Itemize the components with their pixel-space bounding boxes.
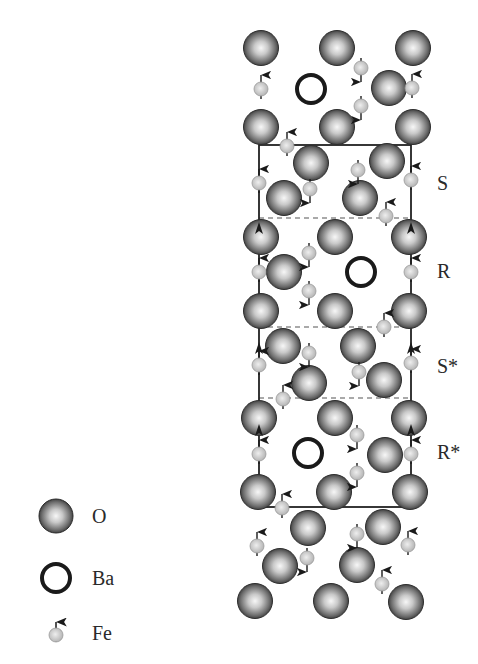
barium-atom-icon bbox=[347, 258, 375, 286]
legend-label-iron: Fe bbox=[92, 622, 112, 644]
oxygen-atom-icon bbox=[238, 584, 273, 619]
iron-atom-icon bbox=[404, 173, 418, 187]
oxygen-atom-icon bbox=[366, 510, 401, 545]
iron-atom-up bbox=[252, 258, 266, 282]
oxygen-atom-icon bbox=[396, 31, 431, 66]
iron-atom-icon bbox=[379, 209, 393, 223]
oxygen-atom-icon bbox=[267, 255, 302, 290]
iron-sphere-icon bbox=[49, 628, 63, 642]
oxygen-atom-icon bbox=[389, 585, 424, 620]
iron-atom-up bbox=[254, 75, 268, 99]
iron-atom-up bbox=[252, 169, 266, 193]
iron-atom-icon bbox=[401, 538, 415, 552]
iron-atom-icon bbox=[252, 358, 266, 372]
iron-atom-icon bbox=[300, 551, 314, 565]
iron-atom-icon bbox=[252, 176, 266, 190]
iron-atom-icon bbox=[404, 447, 418, 461]
oxygen-atom-icon bbox=[370, 144, 405, 179]
iron-atom-up bbox=[250, 532, 264, 556]
iron-atom-icon bbox=[375, 577, 389, 591]
oxygen-atom-icon bbox=[372, 71, 407, 106]
block-label-s: S bbox=[437, 172, 448, 194]
oxygen-atom-icon bbox=[343, 181, 378, 216]
oxygen-sphere-icon bbox=[39, 499, 73, 533]
oxygen-atom-icon bbox=[263, 549, 298, 584]
block-label-s-star: S* bbox=[437, 355, 458, 377]
oxygen-atom-icon bbox=[320, 110, 355, 145]
iron-atom-icon bbox=[276, 392, 290, 406]
iron-atom-up bbox=[401, 531, 415, 555]
legend-item-oxygen: O bbox=[39, 499, 106, 533]
oxygen-atom-icon bbox=[340, 548, 375, 583]
iron-atom-icon bbox=[350, 527, 364, 541]
iron-atom-icon bbox=[354, 61, 368, 75]
iron-atom-icon bbox=[280, 139, 294, 153]
oxygen-atom-icon bbox=[392, 220, 427, 255]
iron-atom-up bbox=[379, 202, 393, 226]
block-label-r-star: R* bbox=[437, 441, 460, 463]
iron-atom-down bbox=[302, 243, 316, 267]
oxygen-atom-icon bbox=[266, 329, 301, 364]
oxygen-atom-icon bbox=[244, 110, 279, 145]
block-label-r: R bbox=[437, 260, 451, 282]
iron-atom-icon bbox=[302, 346, 316, 360]
oxygen-atom-icon bbox=[294, 146, 329, 181]
iron-atom-down bbox=[303, 179, 317, 203]
iron-atom-icon bbox=[275, 501, 289, 515]
legend-label-barium: Ba bbox=[92, 567, 114, 589]
oxygen-atom-icon bbox=[396, 110, 431, 145]
iron-atom-up bbox=[404, 440, 418, 464]
iron-atom-up bbox=[252, 440, 266, 464]
iron-atom-up bbox=[252, 351, 266, 375]
oxygen-atom-icon bbox=[291, 511, 326, 546]
oxygen-atom-icon bbox=[320, 31, 355, 66]
iron-atom-icon bbox=[250, 539, 264, 553]
iron-atom-up bbox=[404, 166, 418, 190]
iron-atom-up bbox=[404, 258, 418, 282]
iron-atom-up bbox=[377, 313, 391, 337]
iron-atom-icon bbox=[404, 265, 418, 279]
oxygen-atom-icon bbox=[292, 366, 327, 401]
iron-atom-up bbox=[405, 74, 419, 98]
oxygen-atoms bbox=[238, 31, 431, 620]
iron-atom-up bbox=[404, 349, 418, 373]
iron-atom-up bbox=[280, 132, 294, 156]
oxygen-atom-icon bbox=[314, 584, 349, 619]
iron-atom-down bbox=[302, 281, 316, 305]
iron-atom-icon bbox=[352, 365, 366, 379]
iron-atom-icon bbox=[302, 284, 316, 298]
iron-atom-icon bbox=[350, 466, 364, 480]
iron-atom-down bbox=[300, 548, 314, 572]
iron-atom-icon bbox=[354, 99, 368, 113]
barium-atom-icon bbox=[294, 439, 322, 467]
iron-atom-icon bbox=[252, 265, 266, 279]
iron-atom-icon bbox=[302, 246, 316, 260]
iron-atom-up bbox=[276, 385, 290, 409]
iron-atom-down bbox=[350, 524, 364, 548]
iron-atom-down bbox=[350, 425, 364, 449]
oxygen-atom-icon bbox=[241, 475, 276, 510]
legend-item-iron: Fe bbox=[49, 622, 112, 644]
barium-ring-icon bbox=[42, 564, 70, 592]
iron-atom-icon bbox=[303, 182, 317, 196]
iron-atom-up bbox=[375, 570, 389, 594]
iron-atom-up bbox=[275, 494, 289, 518]
iron-atom-icon bbox=[404, 356, 418, 370]
oxygen-atom-icon bbox=[368, 438, 403, 473]
oxygen-atom-icon bbox=[267, 181, 302, 216]
oxygen-atom-icon bbox=[393, 475, 428, 510]
iron-atom-icon bbox=[405, 81, 419, 95]
iron-atom-down bbox=[354, 96, 368, 120]
oxygen-atom-icon bbox=[244, 31, 279, 66]
iron-atom-icon bbox=[252, 447, 266, 461]
iron-atom-down bbox=[354, 58, 368, 82]
legend-item-barium: Ba bbox=[42, 564, 114, 592]
oxygen-atom-icon bbox=[341, 329, 376, 364]
oxygen-atom-icon bbox=[318, 401, 353, 436]
block-labels: S R S* R* bbox=[437, 172, 460, 463]
iron-atom-icon bbox=[377, 320, 391, 334]
iron-atom-icon bbox=[350, 428, 364, 442]
barium-atom-icon bbox=[297, 75, 325, 103]
legend: O Ba Fe bbox=[39, 499, 114, 644]
oxygen-atom-icon bbox=[392, 294, 427, 329]
